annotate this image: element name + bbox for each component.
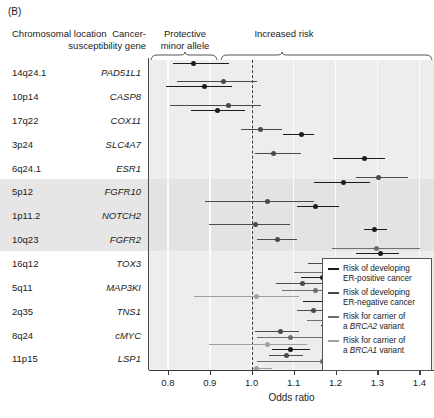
chromosomal-location-cell: 14q24.1 — [12, 67, 46, 78]
odds-ratio-point — [221, 79, 226, 84]
chromosomal-location-cell: 2q35 — [12, 305, 33, 316]
column-header-cancer-gene: Cancer-susceptibility gene — [68, 28, 146, 51]
confidence-interval-line — [166, 86, 232, 87]
legend-line-swatch — [328, 340, 339, 342]
legend-label-line1: Risk of developing — [343, 264, 427, 274]
odds-ratio-point — [313, 288, 318, 293]
table-row: 17q22COX11 — [0, 108, 149, 133]
axis-tick — [210, 370, 211, 375]
legend-label-line1: Risk for carrier of — [343, 312, 427, 322]
table-row: 2q35TNS1 — [0, 298, 149, 323]
table-row: 5p12FGFR10 — [0, 179, 149, 204]
odds-ratio-point — [378, 251, 383, 256]
confidence-interval-line — [209, 344, 307, 345]
odds-ratio-point — [376, 175, 381, 180]
legend-label: Risk of developingER-positive cancer — [343, 264, 427, 284]
confidence-interval-line — [173, 63, 229, 64]
odds-ratio-point — [275, 237, 280, 242]
odds-ratio-point — [271, 151, 276, 156]
legend-item: Risk for carrier ofa BRCA2 variant — [328, 312, 427, 332]
gene-name-cell: FGFR10 — [105, 186, 141, 197]
gene-name-cell: cMYC — [115, 329, 141, 340]
odds-ratio-point — [362, 156, 367, 161]
table-row: 10q23FGFR2 — [0, 227, 149, 252]
axis-tick-label: 1.1 — [279, 377, 309, 388]
gene-name-cell: ESR1 — [116, 162, 141, 173]
odds-ratio-point — [265, 199, 270, 204]
confidence-interval-line — [255, 153, 301, 154]
legend-label-suffix: variant — [377, 322, 404, 331]
chromosomal-location-cell: 10q23 — [12, 234, 38, 245]
odds-ratio-point — [299, 132, 304, 137]
axis-tick — [168, 370, 169, 375]
legend-item: Risk of developingER-negative cancer — [328, 288, 427, 308]
confidence-interval-line — [356, 177, 408, 178]
odds-ratio-point — [278, 329, 283, 334]
reference-line-or-1 — [252, 60, 253, 370]
chromosomal-location-cell: 10p14 — [12, 91, 38, 102]
chromosomal-location-cell: 1p11.2 — [12, 210, 40, 221]
chromosomal-location-cell: 16q12 — [12, 258, 38, 269]
shaded-row-band — [149, 179, 434, 251]
legend: Risk of developingER-positive cancerRisk… — [322, 258, 432, 371]
bracket-label-protective: Protective minor allele — [152, 28, 218, 51]
legend-item: Risk for carrier ofa BRCA1 variant — [328, 336, 427, 356]
table-row: 16q12TOX3 — [0, 251, 149, 276]
odds-ratio-point — [284, 353, 289, 358]
table-row: 11p15LSP1 — [0, 346, 149, 371]
legend-label-line2: a BRCA1 variant — [343, 346, 427, 356]
forest-plot-figure: (B) Chromosomal location Cancer-suscepti… — [0, 0, 434, 418]
axis-tick — [252, 370, 253, 375]
confidence-interval-line — [170, 105, 261, 106]
axis-tick-label: 1.2 — [321, 377, 351, 388]
axis-tick — [294, 370, 295, 375]
odds-ratio-point — [288, 347, 293, 352]
odds-ratio-point — [191, 61, 196, 66]
legend-label-line1: Risk for carrier of — [343, 336, 427, 346]
gene-name-cell: MAP3KI — [106, 281, 141, 292]
legend-label-line2: ER-negative cancer — [343, 298, 427, 308]
gene-name-cell: NOTCH2 — [102, 210, 141, 221]
axis-tick-label: 1.4 — [404, 377, 434, 388]
legend-label-gene: BRCA2 — [350, 322, 377, 331]
odds-ratio-point — [254, 294, 259, 299]
table-row: 6q24.1ESR1 — [0, 155, 149, 180]
confidence-interval-line — [255, 331, 299, 332]
gene-name-cell: TNS1 — [117, 305, 141, 316]
legend-label-prefix: a — [343, 346, 350, 355]
odds-ratio-point — [265, 342, 270, 347]
legend-item: Risk of developingER-positive cancer — [328, 264, 427, 284]
legend-line-swatch — [328, 292, 339, 294]
axis-tick-label: 0.9 — [195, 377, 225, 388]
legend-label-line2: ER-positive cancer — [343, 274, 427, 284]
legend-line-swatch — [328, 316, 339, 318]
gridline — [209, 60, 211, 370]
legend-label: Risk of developingER-negative cancer — [343, 288, 427, 308]
gene-name-cell: CASP8 — [110, 91, 141, 102]
table-row: 8q24cMYC — [0, 322, 149, 347]
confidence-interval-line — [177, 81, 257, 82]
gene-name-cell: COX11 — [111, 114, 141, 125]
confidence-interval-line — [297, 206, 339, 207]
legend-label-line1: Risk of developing — [343, 288, 427, 298]
legend-label-suffix: variant — [377, 346, 404, 355]
table-row: 10p14CASP8 — [0, 84, 149, 109]
gene-name-cell: SLC4A7 — [106, 138, 141, 149]
axis-tick-label: 1.0 — [237, 377, 267, 388]
chromosomal-location-cell: 11p15 — [12, 353, 38, 364]
axis-tick-label: 1.3 — [362, 377, 392, 388]
odds-ratio-point — [258, 127, 263, 132]
odds-ratio-point — [300, 281, 305, 286]
odds-ratio-point — [202, 84, 207, 89]
gene-name-cell: LSP1 — [118, 353, 141, 364]
confidence-interval-line — [194, 296, 299, 297]
legend-label-gene: BRCA1 — [350, 346, 377, 355]
chromosomal-location-cell: 3p24 — [12, 138, 33, 149]
gene-name-cell: FGFR2 — [110, 234, 141, 245]
gridline — [293, 60, 295, 370]
chromosomal-location-cell: 6q24.1 — [12, 162, 41, 173]
confidence-interval-line — [205, 201, 314, 202]
table-row: 14q24.1PAD51L1 — [0, 60, 149, 85]
confidence-interval-line — [209, 224, 290, 225]
chromosomal-location-cell: 5p12 — [12, 186, 33, 197]
